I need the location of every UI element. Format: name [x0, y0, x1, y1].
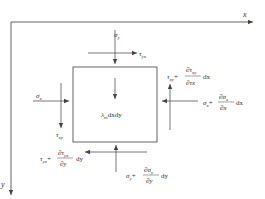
svg-text:σy: σy: [114, 31, 120, 40]
sigma-y-sub: y: [116, 35, 120, 40]
x-axis-label: x: [242, 10, 247, 19]
sigma-y-plus-label: σy+ ∂σy ∂y dy: [126, 166, 169, 185]
right-forces: σx+ ∂σx ∂x dx τxy+ ∂τxy ∂τx dx: [162, 66, 244, 130]
svg-text:dx: dx: [203, 73, 211, 81]
body-force-tail: dxdy: [108, 111, 123, 119]
svg-text:dx: dx: [236, 99, 244, 107]
svg-text:∂y: ∂y: [146, 177, 153, 185]
svg-text:λmdxdy: λmdxdy: [100, 111, 122, 120]
svg-text:∂σy: ∂σy: [144, 166, 154, 175]
svg-text:dy: dy: [161, 172, 169, 180]
svg-text:σx: σx: [36, 92, 42, 101]
top-forces: σy τyx: [88, 30, 147, 64]
svg-text:∂y: ∂y: [60, 160, 67, 168]
svg-text:∂τyx: ∂τyx: [58, 149, 69, 158]
coordinate-axes: x y: [0, 10, 253, 195]
svg-text:τyx: τyx: [139, 50, 147, 59]
tau-xy-sub: xy: [58, 135, 64, 140]
svg-text:∂τx: ∂τx: [186, 79, 196, 87]
stress-element-diagram: x y λmdxdy σy τyx σx τxy: [0, 0, 265, 199]
svg-text:σy+: σy+: [126, 172, 136, 181]
svg-text:τyx+: τyx+: [40, 155, 51, 164]
bottom-forces: τyx+ ∂τyx ∂y dy σy+ ∂σy ∂y dy: [40, 145, 169, 185]
svg-text:∂τxy: ∂τxy: [186, 66, 197, 75]
svg-text:∂x: ∂x: [220, 104, 227, 112]
svg-text:σx+: σx+: [203, 99, 213, 108]
svg-text:τxy: τxy: [56, 131, 64, 140]
svg-text:∂σx: ∂σx: [219, 93, 229, 102]
svg-text:dy: dy: [76, 155, 84, 163]
tau-xy-plus-label: τxy+ ∂τxy ∂τx dx: [167, 66, 211, 87]
y-axis-label: y: [0, 180, 5, 189]
sigma-x-sub: x: [38, 96, 42, 101]
body-force: λmdxdy: [100, 78, 122, 120]
sigma-x-plus-label: σx+ ∂σx ∂x dx: [203, 93, 244, 112]
svg-text:τxy+: τxy+: [167, 73, 178, 82]
tau-yx-plus-label: τyx+ ∂τyx ∂y dy: [40, 149, 84, 168]
left-forces: σx τxy: [33, 83, 69, 140]
tau-yx-sub: yx: [141, 54, 147, 59]
